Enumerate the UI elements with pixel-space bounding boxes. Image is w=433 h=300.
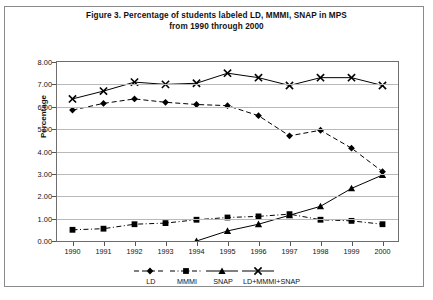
- y-tick-label: 6.00: [18, 103, 52, 112]
- legend-swatch-triangle-icon: [205, 266, 239, 276]
- data-point-diamond: [317, 127, 324, 134]
- legend-swatch-cross-icon: [241, 266, 275, 276]
- legend-label: SNAP: [213, 277, 233, 286]
- gridline: [57, 152, 398, 153]
- data-point-square: [101, 226, 107, 232]
- legend-label: LD: [146, 277, 155, 286]
- legend-item-ld[interactable]: LD: [133, 266, 167, 286]
- data-point-triangle: [348, 185, 355, 192]
- gridline: [57, 219, 398, 220]
- legend-label: LD+MMMI+SNAP: [243, 277, 300, 286]
- data-point-square: [183, 268, 189, 274]
- y-tick-label: 2.00: [18, 192, 52, 201]
- gridline: [57, 84, 398, 85]
- data-point-square: [132, 221, 138, 227]
- x-tick-mark: [321, 242, 322, 246]
- legend-swatch-square-icon: [169, 266, 203, 276]
- series-line: [73, 99, 383, 172]
- y-tick-label: 5.00: [18, 125, 52, 134]
- gridline: [57, 174, 398, 175]
- data-point-diamond: [255, 112, 262, 119]
- x-tick-mark: [352, 242, 353, 246]
- legend-item-mmmi[interactable]: MMMI: [169, 266, 203, 286]
- data-point-diamond: [100, 100, 107, 107]
- series-line: [197, 175, 383, 241]
- x-tick-label: 2000: [363, 247, 403, 256]
- data-point-cross: [379, 82, 386, 89]
- x-tick-mark: [383, 242, 384, 246]
- data-point-diamond: [131, 96, 138, 103]
- data-point-square: [70, 227, 76, 233]
- data-point-cross: [69, 95, 76, 102]
- data-point-cross: [100, 87, 107, 94]
- series-snap: [193, 171, 386, 241]
- legend-item-ld-mmmi-snap[interactable]: LD+MMMI+SNAP: [241, 266, 300, 286]
- x-tick-mark: [166, 242, 167, 246]
- x-tick-mark: [228, 242, 229, 246]
- data-point-square: [380, 221, 386, 227]
- chart-plot-area: Percentage 0.001.002.003.004.005.006.007…: [0, 0, 433, 300]
- data-point-diamond: [224, 102, 231, 109]
- series-line: [73, 73, 383, 99]
- y-tick-label: 8.00: [18, 58, 52, 67]
- plot-frame: [56, 61, 399, 242]
- x-tick-mark: [104, 242, 105, 246]
- chart-legend: LDMMMISNAPLD+MMMI+SNAP: [0, 266, 433, 286]
- data-point-triangle: [317, 203, 324, 210]
- gridline: [57, 107, 398, 108]
- legend-swatch-diamond-icon: [133, 266, 167, 276]
- legend-item-snap[interactable]: SNAP: [205, 266, 239, 286]
- series-ld-mmmi-snap: [69, 70, 386, 103]
- data-point-square: [163, 220, 169, 226]
- legend-label: MMMI: [177, 277, 197, 286]
- data-point-cross: [286, 82, 293, 89]
- data-point-diamond: [147, 268, 154, 275]
- y-tick-label: 7.00: [18, 80, 52, 89]
- data-point-diamond: [286, 132, 293, 139]
- y-tick-label: 4.00: [18, 148, 52, 157]
- x-tick-mark: [197, 242, 198, 246]
- data-point-diamond: [162, 99, 169, 106]
- x-tick-mark: [290, 242, 291, 246]
- gridline: [57, 196, 398, 197]
- x-tick-mark: [135, 242, 136, 246]
- y-tick-label: 0.00: [18, 237, 52, 246]
- gridline: [57, 129, 398, 130]
- x-tick-mark: [259, 242, 260, 246]
- y-tick-label: 3.00: [18, 170, 52, 179]
- x-tick-mark: [73, 242, 74, 246]
- y-tick-label: 1.00: [18, 215, 52, 224]
